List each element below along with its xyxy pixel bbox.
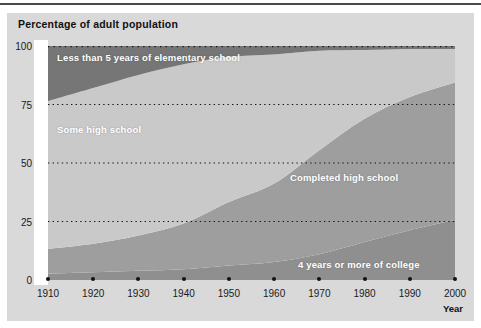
series-label-some-high-school: Some high school — [57, 124, 141, 135]
y-axis-gutter — [34, 40, 48, 285]
page-title: Percentage of adult population — [18, 18, 178, 30]
chart-page: Percentage of adult population 100 75 50… — [0, 0, 481, 328]
plot-area — [48, 46, 455, 280]
stacked-area-svg — [48, 46, 455, 280]
x-axis-title: Year — [443, 303, 463, 314]
series-label-elementary: Less than 5 years of elementary school — [57, 52, 240, 63]
y-tick-label-0: 0 — [2, 275, 32, 286]
y-tick-label-25: 25 — [2, 216, 32, 227]
series-label-completed-high-school: Completed high school — [290, 172, 398, 183]
top-divider-rule — [0, 3, 481, 5]
y-tick-label-50: 50 — [2, 158, 32, 169]
y-axis: 100 75 50 25 0 — [0, 0, 32, 328]
y-tick-label-100: 100 — [2, 41, 32, 52]
series-label-college: 4 years or more of college — [298, 259, 420, 270]
y-tick-label-75: 75 — [2, 99, 32, 110]
